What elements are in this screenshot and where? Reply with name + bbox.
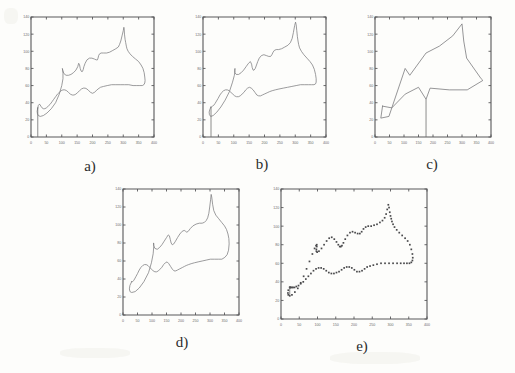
data-marker	[382, 220, 384, 222]
data-marker	[357, 233, 359, 235]
axis-frame	[203, 17, 326, 137]
panel-label-e: e)	[342, 338, 382, 355]
data-marker	[314, 248, 316, 250]
data-marker	[336, 272, 338, 274]
x-tick-label: 100	[401, 141, 407, 145]
y-tick-label: 60	[197, 84, 201, 88]
x-tick-label: 300	[459, 141, 465, 145]
data-marker	[394, 226, 396, 228]
data-marker	[302, 281, 304, 283]
data-marker	[385, 213, 387, 215]
x-tick-label: 50	[216, 141, 220, 145]
data-marker	[384, 262, 386, 264]
y-tick-label: 40	[25, 101, 29, 105]
data-marker	[298, 285, 300, 287]
x-tick-label: 250	[105, 141, 111, 145]
data-marker	[287, 292, 289, 294]
y-tick-label: 140	[115, 187, 121, 191]
data-marker	[310, 273, 312, 275]
data-marker	[354, 269, 356, 271]
y-tick-label: 40	[197, 101, 201, 105]
y-tick-label: 140	[273, 187, 279, 191]
x-tick-label: 50	[297, 323, 301, 327]
panel-label-a: a)	[70, 158, 110, 175]
y-tick-label: 120	[367, 33, 373, 37]
data-marker	[306, 268, 308, 270]
data-marker	[370, 225, 372, 227]
data-marker	[300, 283, 302, 285]
y-tick-label: 60	[117, 259, 121, 263]
x-tick-label: 0	[202, 141, 204, 145]
data-marker	[318, 250, 320, 252]
plot-area-b: 0501001502002503003504000204060801001201…	[190, 14, 330, 148]
data-marker	[347, 235, 349, 237]
panel-label-b: b)	[242, 156, 282, 173]
data-marker	[396, 262, 398, 264]
panel-label-c: c)	[412, 156, 452, 173]
data-marker	[349, 232, 351, 234]
y-tick-label: 0	[199, 135, 201, 139]
panel-c: 0501001502002503003504000204060801001201…	[362, 14, 495, 148]
y-tick-label: 80	[369, 67, 373, 71]
x-tick-label: 100	[231, 141, 237, 145]
data-marker	[320, 267, 322, 269]
data-marker	[410, 262, 412, 264]
data-marker	[313, 270, 315, 272]
data-marker	[344, 238, 346, 240]
data-marker	[391, 221, 393, 223]
panel-label-d: d)	[162, 334, 202, 351]
data-marker	[407, 240, 409, 242]
x-tick-label: 250	[277, 141, 283, 145]
data-marker	[401, 235, 403, 237]
plot-area-d: 0501001502002503003504000204060801001201…	[110, 186, 243, 326]
data-marker	[343, 242, 345, 244]
data-marker	[386, 209, 388, 211]
data-marker	[287, 294, 289, 296]
x-tick-label: 200	[90, 141, 96, 145]
y-tick-label: 60	[275, 262, 279, 266]
x-tick-label: 250	[445, 141, 451, 145]
x-tick-label: 300	[292, 141, 298, 145]
x-tick-label: 50	[388, 141, 392, 145]
data-marker	[316, 251, 318, 253]
y-tick-label: 120	[115, 205, 121, 209]
y-tick-label: 140	[367, 15, 373, 19]
x-tick-label: 0	[122, 319, 124, 323]
y-tick-label: 100	[195, 50, 201, 54]
data-marker	[390, 218, 392, 220]
y-tick-label: 120	[23, 33, 29, 37]
data-marker	[356, 271, 358, 273]
data-marker	[297, 288, 299, 290]
data-marker	[398, 232, 400, 234]
data-marker	[336, 241, 338, 243]
data-marker	[372, 264, 374, 266]
data-marker	[291, 294, 293, 296]
data-marker	[316, 249, 318, 251]
data-marker	[406, 262, 408, 264]
y-tick-label: 20	[369, 118, 373, 122]
data-marker	[387, 204, 389, 206]
data-marker	[294, 291, 296, 293]
data-marker	[388, 262, 390, 264]
data-marker	[343, 267, 345, 269]
panel-b: 0501001502002503003504000204060801001201…	[190, 14, 330, 148]
y-tick-label: 40	[117, 277, 121, 281]
x-tick-label: 200	[351, 323, 357, 327]
data-marker	[354, 232, 356, 234]
y-tick-label: 80	[25, 67, 29, 71]
y-tick-label: 0	[371, 135, 373, 139]
x-tick-label: 350	[222, 319, 228, 323]
data-marker	[328, 237, 330, 239]
data-marker	[316, 244, 318, 246]
x-tick-label: 50	[44, 141, 48, 145]
x-tick-label: 150	[416, 141, 422, 145]
data-marker	[373, 224, 375, 226]
x-tick-label: 200	[430, 141, 436, 145]
data-marker	[346, 266, 348, 268]
data-marker	[359, 271, 361, 273]
data-marker	[363, 228, 365, 230]
x-tick-label: 400	[151, 141, 157, 145]
data-marker	[287, 289, 289, 291]
data-marker	[315, 268, 317, 270]
data-marker	[321, 248, 323, 250]
